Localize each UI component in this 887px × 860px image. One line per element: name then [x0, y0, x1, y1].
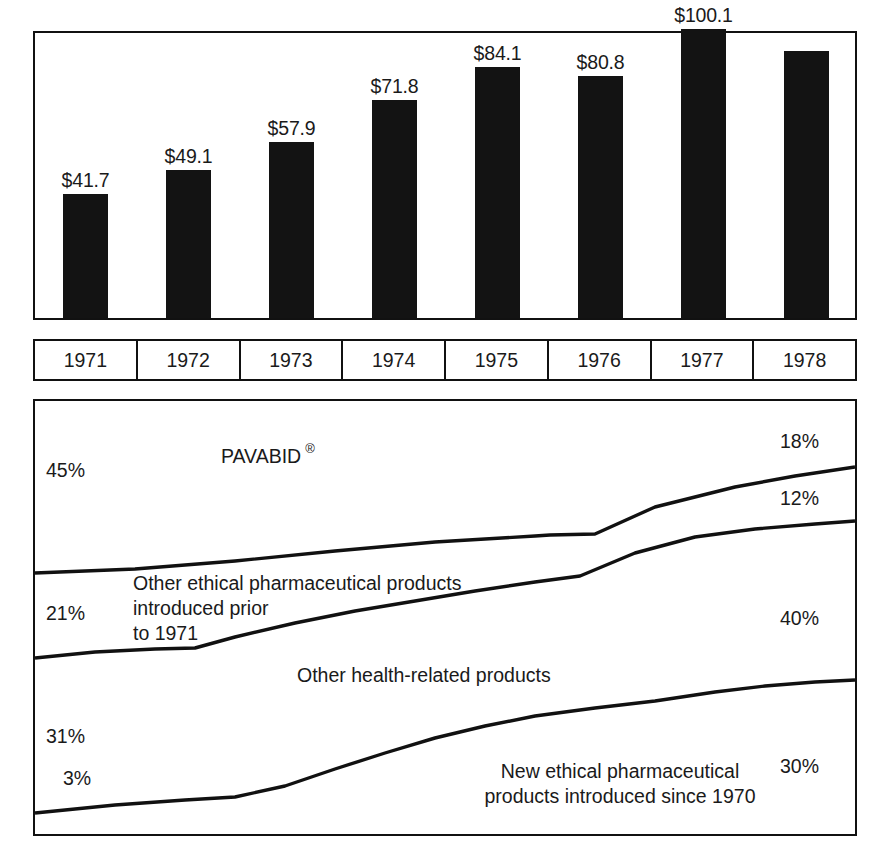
left-percentage-other-ethical: 21%: [46, 601, 85, 626]
bar-rect: [681, 29, 726, 318]
year-cell: 1977: [652, 341, 755, 379]
year-cell: 1972: [138, 341, 241, 379]
bar-value-label: $41.7: [35, 169, 136, 192]
year-cell: 1971: [35, 341, 138, 379]
other-ethical-line-1: Other ethical pharmaceutical products: [133, 571, 461, 596]
left-percentage-new-ethical: 3%: [63, 766, 91, 791]
other-ethical-line-3: to 1971: [133, 621, 461, 646]
band-annotation-pavabid: PAVABID®: [221, 438, 315, 469]
registered-trademark-icon: ®: [305, 441, 315, 456]
band-annotation-health-related: Other health-related products: [297, 663, 551, 688]
new-ethical-line-1: New ethical pharmaceutical: [475, 759, 765, 784]
year-cell: 1975: [446, 341, 549, 379]
year-cell: 1978: [754, 341, 855, 379]
bar-rect: [475, 67, 520, 318]
band-annotation-other-ethical: Other ethical pharmaceutical products in…: [133, 571, 461, 646]
bar-column-1973: $57.9: [241, 33, 344, 318]
left-percentage-health-related: 31%: [46, 724, 85, 749]
band-divider-pavabid: [35, 467, 855, 573]
bar-value-label: $80.8: [550, 51, 651, 74]
left-percentage-pavabid: 45%: [46, 458, 85, 483]
bar-value-label: $49.1: [138, 145, 239, 168]
bar-rect: [578, 76, 623, 318]
year-cell: 1973: [241, 341, 344, 379]
bar-value-label: $100.1: [653, 4, 754, 27]
chart-page: $41.7 $49.1 $57.9 $71.8 $84.1 $80.8: [0, 0, 887, 860]
other-ethical-line-2: introduced prior: [133, 596, 461, 621]
bar-plot-area: $41.7 $49.1 $57.9 $71.8 $84.1 $80.8: [35, 33, 855, 318]
right-percentage-pavabid: 18%: [780, 429, 819, 454]
bar-column-1971: $41.7: [35, 33, 138, 318]
bar-rect: [372, 100, 417, 318]
bar-value-label: $71.8: [344, 75, 445, 98]
right-percentage-new-ethical: 30%: [780, 754, 819, 779]
new-ethical-line-2: products introduced since 1970: [475, 784, 765, 809]
year-cell: 1974: [343, 341, 446, 379]
bar-column-1976: $80.8: [550, 33, 653, 318]
bar-rect: [63, 194, 108, 318]
bar-value-label: $57.9: [241, 117, 342, 140]
area-chart-panel: 45% 21% 31% 3% 18% 12% 40% 30% PAVABID® …: [33, 399, 857, 836]
right-percentage-health-related: 40%: [780, 606, 819, 631]
bar-column-1978: $117.4: [756, 33, 859, 318]
right-percentage-other-ethical: 12%: [780, 486, 819, 511]
bar-value-label: $84.1: [447, 42, 548, 65]
bar-column-1972: $49.1: [138, 33, 241, 318]
pavabid-text: PAVABID: [221, 445, 301, 467]
bar-rect: [784, 51, 829, 318]
year-cell: 1976: [549, 341, 652, 379]
bar-column-1977: $100.1: [653, 33, 756, 318]
bar-column-1974: $71.8: [344, 33, 447, 318]
band-annotation-new-ethical: New ethical pharmaceutical products intr…: [475, 759, 765, 809]
year-axis-strip: 1971 1972 1973 1974 1975 1976 1977 1978: [33, 339, 857, 381]
bar-chart-panel: $41.7 $49.1 $57.9 $71.8 $84.1 $80.8: [33, 31, 857, 320]
bar-column-1975: $84.1: [447, 33, 550, 318]
bar-rect: [269, 142, 314, 318]
bar-rect: [166, 170, 211, 318]
